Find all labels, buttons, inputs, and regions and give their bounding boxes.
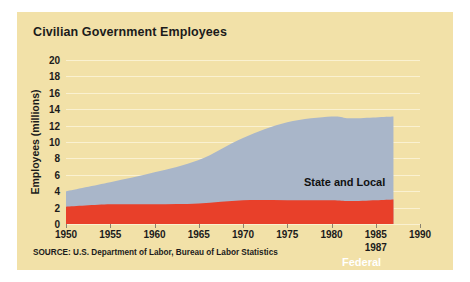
y-tick-label: 14 [49, 104, 60, 115]
x-tick-label: 1985 [365, 229, 387, 240]
plot-area: 02468101214161820 1950195519601965197019… [66, 60, 420, 224]
chart-panel: Civilian Government Employees Employees … [17, 12, 453, 270]
y-tick-label: 2 [54, 202, 60, 213]
x-tick-label: 1965 [188, 229, 210, 240]
chart-title: Civilian Government Employees [33, 25, 227, 39]
x-tick-mark [199, 224, 200, 228]
y-tick-label: 0 [54, 219, 60, 230]
y-tick-label: 20 [49, 55, 60, 66]
y-tick-label: 16 [49, 87, 60, 98]
y-tick-label: 18 [49, 71, 60, 82]
y-tick-label: 8 [54, 153, 60, 164]
x-tick-mark [287, 224, 288, 228]
y-axis-label: Employees (millions) [28, 60, 42, 224]
x-tick-mark [332, 224, 333, 228]
series-label-federal: Federal [342, 256, 381, 268]
y-tick-label: 12 [49, 120, 60, 131]
x-tick-label: 1950 [55, 229, 77, 240]
x-tick-mark [243, 224, 244, 228]
series-label-state-and-local: State and Local [304, 176, 385, 188]
source-note: SOURCE: U.S. Department of Labor, Bureau… [33, 248, 278, 257]
y-tick-label: 4 [54, 186, 60, 197]
x-tick-label: 1990 [409, 229, 431, 240]
x-tick-label: 1975 [276, 229, 298, 240]
x-tick-mark [110, 224, 111, 228]
y-tick-label: 6 [54, 169, 60, 180]
x-tick-label: 1960 [143, 229, 165, 240]
x-tick-label: 1980 [320, 229, 342, 240]
x-tick-mark [155, 224, 156, 228]
x-tick-mark [66, 224, 67, 228]
x-tick-label: 1970 [232, 229, 254, 240]
chart-figure: Civilian Government Employees Employees … [0, 0, 470, 282]
x-axis-end-year-annotation: 1987 [365, 242, 387, 253]
x-tick-mark [420, 224, 421, 228]
y-tick-label: 10 [49, 137, 60, 148]
x-tick-mark [376, 224, 377, 228]
stacked-area-series [66, 60, 420, 224]
x-tick-label: 1955 [99, 229, 121, 240]
